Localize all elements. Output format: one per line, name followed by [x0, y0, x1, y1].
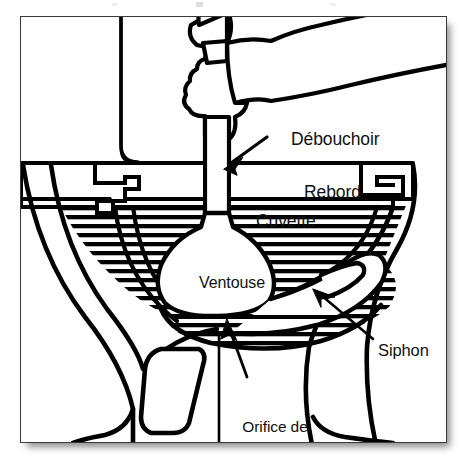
cropped-text-artifact [112, 3, 117, 6]
figure-stage: Débouchoir Rebord Cuvette Ventouse Sipho… [0, 0, 462, 460]
cistern-bottom-curve [121, 17, 138, 162]
cropped-text-artifact [196, 2, 203, 7]
label-orifice-line-1: Orifice de [213, 418, 337, 435]
diagram-frame: Débouchoir Rebord Cuvette Ventouse Sipho… [20, 16, 447, 443]
label-debouchoir: Débouchoir [291, 131, 380, 149]
cistern-outline [21, 17, 135, 163]
label-ventouse: Ventouse [199, 275, 265, 291]
label-siphon: Siphon [378, 342, 429, 359]
label-orifice-de-vidange: Orifice de vidange de la toilette [213, 383, 337, 443]
label-cuvette: Cuvette [256, 213, 316, 231]
label-rebord: Rebord [304, 184, 361, 202]
cropped-text-artifact [330, 3, 336, 6]
toilet-cross-section-illustration [21, 17, 446, 442]
